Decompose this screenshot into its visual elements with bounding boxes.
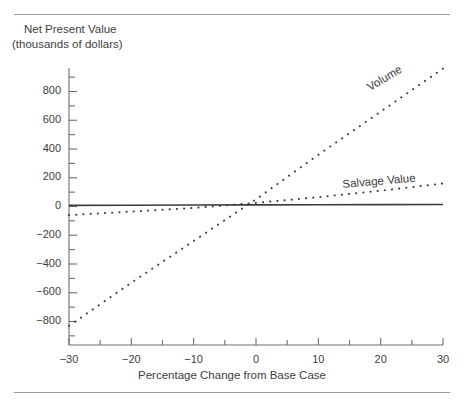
- x-tick-label: 30: [423, 353, 463, 365]
- plot-area: [0, 0, 464, 406]
- y-tick-label: 600: [15, 113, 61, 125]
- y-tick-label: 400: [15, 142, 61, 154]
- x-tick-label: −10: [174, 353, 214, 365]
- x-tick-label: −30: [49, 353, 89, 365]
- series-line-salvage-value: [69, 184, 443, 216]
- y-tick-label: 800: [15, 84, 61, 96]
- x-tick-label: 10: [298, 353, 338, 365]
- y-tick-label: −400: [15, 257, 61, 269]
- series-group: [69, 69, 443, 326]
- figure-container: Net Present Value (thousands of dollars)…: [0, 0, 464, 406]
- y-tick-label: 200: [15, 170, 61, 182]
- y-tick-label: −800: [15, 314, 61, 326]
- x-tick-label: −20: [111, 353, 151, 365]
- y-tick-label: 0: [15, 199, 61, 211]
- series-line-base: [69, 204, 443, 205]
- x-tick-label: 0: [236, 353, 276, 365]
- axes-group: [69, 68, 443, 345]
- x-tick-label: 20: [361, 353, 401, 365]
- y-tick-label: −200: [15, 228, 61, 240]
- y-tick-label: −600: [15, 285, 61, 297]
- x-axis-title: Percentage Change from Base Case: [0, 369, 464, 381]
- series-line-volume: [69, 69, 443, 326]
